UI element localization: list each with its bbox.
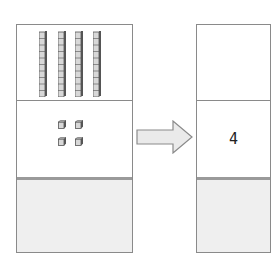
unit-cube-icon [58, 137, 66, 146]
arrow-right-icon [136, 120, 194, 154]
ones-cell-blocks [17, 101, 132, 177]
tens-digit [197, 25, 270, 100]
unit-cube-icon [75, 120, 83, 129]
hundreds-cell-blocks [17, 177, 132, 252]
ten-rod-icon [75, 31, 83, 97]
hundreds-digit [197, 180, 270, 252]
ten-rod-icon [39, 31, 47, 97]
ten-rod-icon [58, 31, 66, 97]
unit-cube-icon [75, 137, 83, 146]
digits-panel: 4 [196, 24, 271, 253]
ten-rod-icon [93, 31, 101, 97]
unit-cube-icon [58, 120, 66, 129]
blocks-panel [16, 24, 133, 253]
tens-cell-digit [197, 25, 270, 101]
tens-cell-blocks [17, 25, 132, 101]
hundreds-cell-digit [197, 177, 270, 252]
ones-digit: 4 [197, 101, 270, 177]
ones-cell-digit: 4 [197, 101, 270, 177]
